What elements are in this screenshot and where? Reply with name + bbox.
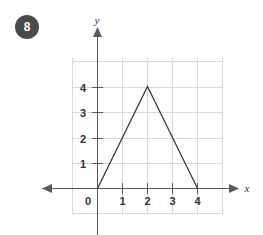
y-axis-tick-labels: 1 2 3 4	[80, 82, 87, 170]
y-axis-arrow-up-icon	[93, 27, 102, 37]
y-tick-label: 3	[80, 107, 86, 119]
x-axis-arrow-right-icon	[229, 184, 239, 193]
y-tick-label: 1	[80, 158, 86, 170]
x-axis	[42, 184, 239, 193]
worksheet-page: 8	[0, 0, 263, 235]
origin-label: 0	[85, 195, 91, 207]
x-tick-label: 1	[119, 195, 125, 207]
x-axis-label: x	[244, 182, 250, 194]
y-tick-label: 2	[80, 133, 86, 145]
x-tick-label: 2	[144, 195, 150, 207]
x-tick-label: 3	[169, 195, 175, 207]
y-axis	[93, 27, 102, 235]
graph-svg: 1 2 3 4 1 2 3 4 0 x y	[0, 0, 263, 235]
x-axis-arrow-left-icon	[42, 184, 52, 193]
x-axis-tick-labels: 1 2 3 4	[119, 195, 201, 207]
x-tick-label: 4	[194, 195, 201, 207]
y-axis-label: y	[94, 14, 100, 26]
coordinate-plane-graph: 1 2 3 4 1 2 3 4 0 x y	[0, 0, 263, 235]
y-tick-label: 4	[80, 82, 87, 94]
